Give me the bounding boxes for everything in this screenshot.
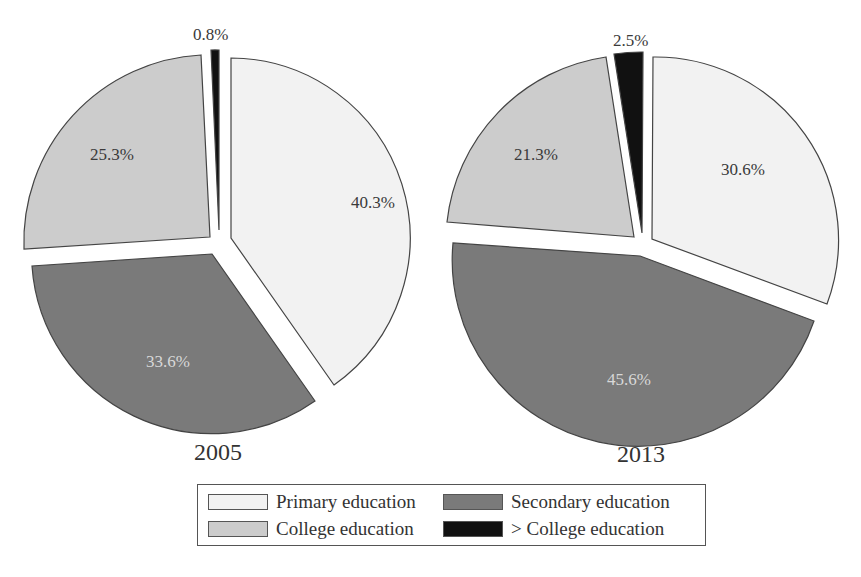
label-2005-college: 25.3% — [90, 145, 134, 164]
label-2013-college: 21.3% — [514, 145, 558, 164]
label-2005-primary: 40.3% — [351, 193, 395, 212]
label-2013-above-college: 2.5% — [613, 31, 648, 50]
legend: Primary education Secondary education Co… — [197, 484, 706, 546]
swatch-college-icon — [208, 521, 268, 537]
label-2005-above-college: 0.8% — [193, 25, 228, 44]
legend-label-primary: Primary education — [276, 491, 416, 513]
swatch-above-college-icon — [443, 521, 503, 537]
pie-2013: 30.6% 45.6% 21.3% 2.5% 2013 — [447, 31, 839, 467]
label-2013-primary: 30.6% — [721, 160, 765, 179]
legend-item-above-college[interactable]: > College education — [443, 518, 664, 540]
swatch-primary-icon — [208, 494, 268, 510]
swatch-secondary-icon — [443, 494, 503, 510]
label-2013-secondary: 45.6% — [607, 370, 651, 389]
legend-item-college[interactable]: College education — [208, 518, 414, 540]
legend-item-secondary[interactable]: Secondary education — [443, 491, 670, 513]
legend-label-above-college: > College education — [511, 518, 664, 540]
year-label-2005: 2005 — [194, 439, 242, 465]
legend-label-college: College education — [276, 518, 414, 540]
label-2005-secondary: 33.6% — [146, 352, 190, 371]
slice-2005-above-college[interactable] — [211, 50, 219, 230]
pie-2005: 40.3% 33.6% 25.3% 0.8% 2005 — [24, 25, 410, 465]
year-label-2013: 2013 — [617, 441, 665, 467]
legend-item-primary[interactable]: Primary education — [208, 491, 416, 513]
legend-label-secondary: Secondary education — [511, 491, 670, 513]
slice-2013-primary[interactable] — [652, 57, 839, 304]
